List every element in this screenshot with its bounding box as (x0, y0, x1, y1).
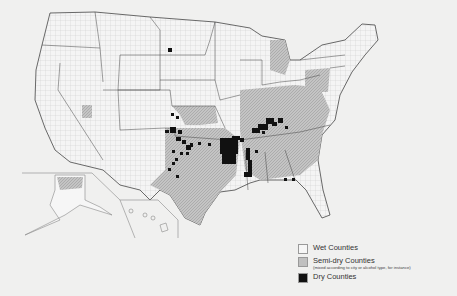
legend-note: (mixed according to city or alcohol type… (313, 265, 411, 270)
legend-label-text: Semi-dry Counties (313, 256, 375, 265)
legend-item-semi-dry: Semi-dry Counties (mixed according to ci… (298, 256, 457, 270)
legend-label: Semi-dry Counties (mixed according to ci… (313, 256, 411, 270)
legend-item-dry: Dry Counties (298, 272, 457, 283)
semi-dry-swatch-icon (298, 257, 308, 267)
legend-label: Wet Counties (313, 243, 358, 252)
hawaii-inset (120, 200, 178, 238)
dry-swatch-icon (298, 273, 308, 283)
legend-label: Dry Counties (313, 272, 356, 281)
map-legend: Wet Counties Semi-dry Counties (mixed ac… (298, 243, 457, 285)
wet-swatch-icon (298, 244, 308, 254)
legend-item-wet: Wet Counties (298, 243, 457, 254)
